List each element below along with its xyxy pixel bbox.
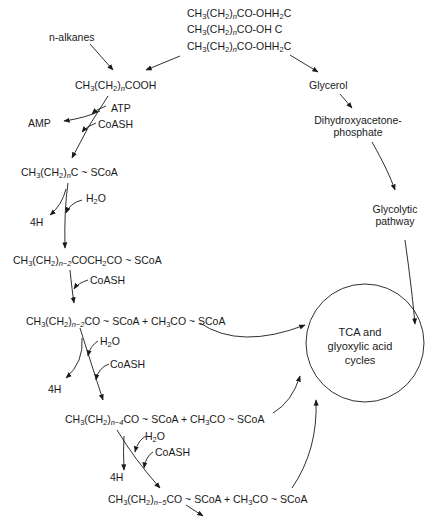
arrow-alkanes-to-fatty-acid	[90, 44, 113, 70]
arrow-4h-3	[124, 436, 125, 470]
dhap-line-1: Dihydroxyacetone-	[303, 114, 413, 126]
arrow-glycolytic-to-cycle	[405, 240, 415, 324]
arrow-triglyceride-to-fatty-acid	[146, 56, 180, 70]
glycolytic-line-1: Glycolytic	[360, 203, 430, 215]
arrow-step3-acetyl-to-cycle	[292, 400, 316, 488]
h2o-2-label: H2O	[100, 335, 120, 347]
cycle-line-3: cycles	[300, 353, 420, 367]
arrow-step2-acetyl-to-cycle	[273, 376, 300, 413]
h2o-3-label: H2O	[145, 430, 165, 442]
arrow-coash-3-in	[96, 364, 109, 380]
coash-3-label: CoASH	[110, 358, 145, 370]
glycolytic-pathway-label: Glycolytic pathway	[360, 203, 430, 227]
step3-products-label: CH3(CH2)n−5CO ~ SCoA + CH3CO ~ SCoA	[108, 493, 307, 505]
amp-label: AMP	[28, 117, 51, 129]
arrow-coash-2-in	[74, 280, 88, 289]
arrow-h2o-1-in	[66, 200, 82, 213]
arrow-coash-1-in	[82, 123, 96, 132]
triglyceride-line-3: CH3(CH2)nCO-OHH2C	[187, 40, 291, 52]
acyl-coa-label: CH3(CH2)nC ~ SCoA	[21, 166, 118, 178]
4h-2-label: 4H	[48, 383, 61, 395]
coash-1-label: CoASH	[98, 118, 133, 130]
coash-4-label: CoASH	[155, 446, 190, 458]
arrow-glycerol-to-dhap	[340, 94, 352, 108]
4h-3-label: 4H	[110, 471, 123, 483]
atp-label: ATP	[111, 102, 131, 114]
fatty-acid-label: CH3(CH2)nCOOH	[75, 79, 156, 91]
arrow-ketoacyl-to-step1	[70, 270, 74, 303]
arrow-4h-2	[66, 338, 82, 378]
step1-products-label: CH3(CH2)n−2CO ~ SCoA + CH3CO ~ SCoA	[26, 315, 225, 327]
arrow-coash-4-in	[144, 452, 153, 468]
arrow-dhap-to-glycolytic	[372, 142, 395, 190]
n-alkanes-label: n-alkanes	[49, 31, 95, 43]
arrow-h2o-2-in	[88, 341, 98, 356]
cycle-line-2: glyoxylic acid	[300, 339, 420, 353]
cycle-line-1: TCA and	[300, 325, 420, 339]
ketoacyl-coa-label: CH3(CH2)n−2COCH2CO ~ SCoA	[13, 254, 162, 266]
dhap-label: Dihydroxyacetone- phosphate	[303, 114, 413, 138]
step2-products-label: CH3(CH2)n−4CO ~ SCoA + CH3CO ~ SCoA	[65, 413, 264, 425]
dhap-line-2: phosphate	[303, 126, 413, 138]
triglyceride-line-2: CH3(CH2)nCO-OH C	[187, 23, 282, 35]
triglyceride-line-1: CH3(CH2)nCO-OHH2C	[187, 7, 291, 19]
glycolytic-line-2: pathway	[360, 215, 430, 227]
glycerol-label: Glycerol	[309, 79, 348, 91]
tca-glyoxylic-cycles-label: TCA and glyoxylic acid cycles	[300, 325, 420, 367]
4h-1-label: 4H	[30, 216, 43, 228]
arrow-step3-continue	[186, 505, 203, 516]
h2o-1-label: H2O	[86, 192, 106, 204]
coash-2-label: CoASH	[90, 274, 125, 286]
arrow-4h-1	[50, 189, 66, 215]
arrow-triglyceride-to-glycerol	[290, 55, 318, 72]
